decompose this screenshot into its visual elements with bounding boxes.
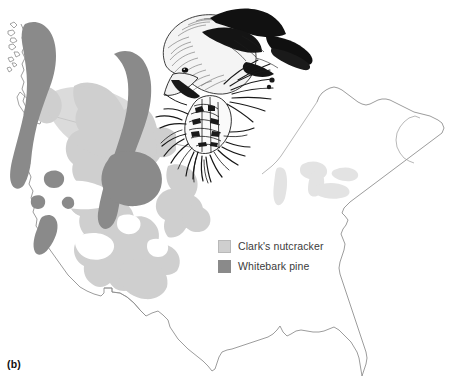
- figure-panel-b: Clark's nutcracker Whitebark pine (b): [0, 0, 451, 384]
- legend-label-whitebark-pine: Whitebark pine: [238, 261, 309, 272]
- legend-label-clarks-nutcracker: Clark's nutcracker: [238, 241, 324, 252]
- legend: Clark's nutcracker Whitebark pine: [218, 237, 324, 277]
- clarks-nutcracker-swatch: [218, 240, 231, 253]
- clarks-nutcracker-illustration: [0, 0, 451, 384]
- whitebark-pine-swatch: [218, 260, 231, 273]
- legend-item-clarks-nutcracker: Clark's nutcracker: [218, 237, 324, 255]
- legend-item-whitebark-pine: Whitebark pine: [218, 257, 324, 275]
- bird-eye: [182, 67, 188, 72]
- pine-cone: [185, 96, 232, 154]
- panel-label: (b): [7, 358, 21, 370]
